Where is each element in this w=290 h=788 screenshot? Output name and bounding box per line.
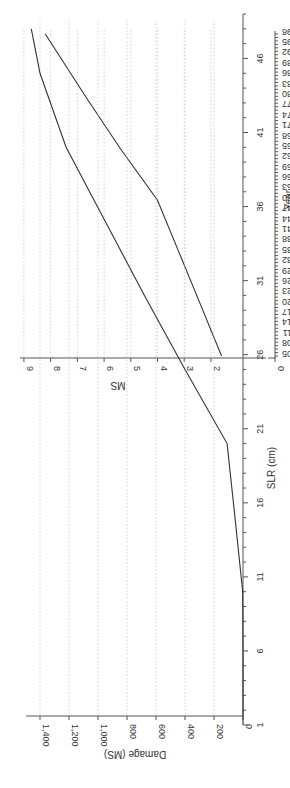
bottom-slr-tick-label: 16 [255,498,265,508]
top-year-tick-label: 2089 [282,58,290,68]
ms-by-year-chart: 987654320 200520082011201420172020202320… [20,27,290,391]
top-year-tick-label: 2017 [282,307,290,317]
top-value-tick-label: 5 [132,366,142,371]
top-year-tick-label: 2005 [282,349,290,359]
top-year-tick-label: 2068 [282,130,290,140]
top-year-tick-label: 2077 [282,99,290,109]
top-year-tick-label: 2023 [282,286,290,296]
bottom-value-tick-label: 200 [215,724,225,739]
ms-series-line [45,34,221,356]
top-year-tick-label: 2041 [282,224,290,234]
top-value-tick-label: 3 [185,366,195,371]
top-year-tick-label: 2011 [283,328,290,338]
damage-series-line [31,29,243,725]
top-year-tick-label: 2020 [282,297,290,307]
top-value-tick-label: 4 [159,366,169,371]
bottom-value-tick-label: 1,200 [70,724,80,747]
top-value-tick-label: 0 [276,366,286,371]
bottom-slr-tick-label: 26 [255,350,265,360]
top-year-tick-label: 2071 [282,120,290,130]
top-year-tick-label: 2014 [282,317,290,327]
top-year-tick-label: 2062 [282,151,290,161]
top-chart-ylabel: MS [110,380,125,391]
bottom-slr-tick-label: 46 [255,53,265,63]
top-value-tick-label: 6 [105,366,115,371]
bottom-slr-tick-label: 31 [255,276,265,286]
top-year-tick-label: 2029 [282,266,290,276]
top-year-tick-label: 2092 [282,47,290,57]
top-year-tick-label: 2095 [282,37,290,47]
bottom-slr-tick-label: 36 [255,202,265,212]
bottom-value-tick-label: 800 [128,724,138,739]
bottom-slr-tick-label: 6 [255,648,265,653]
top-year-tick-label: 2074 [282,110,290,120]
top-year-tick-label: 2083 [282,79,290,89]
top-year-tick-label: 2080 [282,89,290,99]
top-chart-xlabel: Year [283,189,290,210]
top-year-tick-label: 2032 [282,255,290,265]
bottom-value-tick-label: 1,400 [41,724,51,747]
bottom-slr-tick-label: 21 [255,424,265,434]
top-year-tick-label: 2035 [282,245,290,255]
top-year-tick-label: 2056 [282,172,290,182]
bottom-chart-value-ticks: 02004006008001,0001,2001,400 [40,716,254,747]
bottom-value-tick-label: 1,000 [99,724,109,747]
rotated-page-canvas: 987654320 200520082011201420172020202320… [0,0,290,788]
bottom-chart-slr-ticks: 161116212631364146 [243,14,265,728]
top-chart-gridlines [24,30,211,358]
bottom-slr-tick-label: 1 [255,722,265,727]
bottom-chart-xlabel: SLR (cm) [266,447,277,489]
top-year-tick-label: 2026 [282,276,290,286]
top-year-tick-label: 2044 [282,214,290,224]
top-year-tick-label: 2008 [282,338,290,348]
bottom-chart-ylabel: Damage (MS) [104,749,166,760]
bottom-value-tick-label: 400 [186,724,196,739]
top-year-tick-label: 2098 [282,27,290,37]
bottom-slr-tick-label: 41 [255,127,265,137]
top-chart-value-ticks: 987654320 [24,358,286,371]
top-year-tick-label: 2086 [282,68,290,78]
top-year-tick-label: 2059 [282,162,290,172]
top-year-tick-label: 2065 [282,141,290,151]
top-value-tick-label: 7 [78,366,88,371]
damage-by-slr-chart: 02004006008001,0001,2001,400 16111621263… [26,14,277,760]
top-value-tick-label: 2 [212,366,222,371]
top-value-tick-label: 9 [25,366,35,371]
bottom-value-tick-label: 600 [157,724,167,739]
top-year-tick-label: 2038 [282,234,290,244]
top-value-tick-label: 8 [52,366,62,371]
bottom-slr-tick-label: 11 [255,572,265,581]
